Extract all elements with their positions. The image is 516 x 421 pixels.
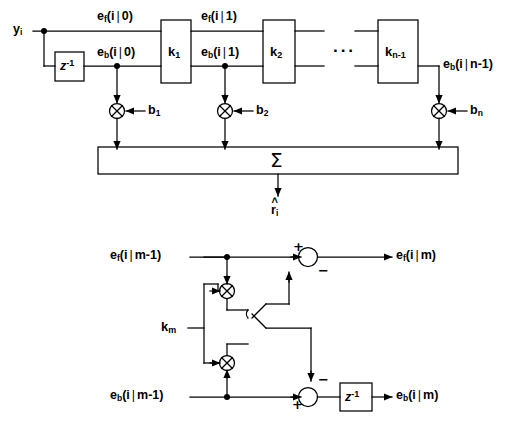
tap-gain-label-b2: b2 bbox=[256, 104, 268, 118]
output-label-ef-i-m: ef(i|m) bbox=[396, 249, 436, 263]
stages-ellipsis: ··· bbox=[333, 42, 356, 59]
sign-backward-plus: + bbox=[292, 398, 303, 411]
junction-backward-tap bbox=[224, 394, 230, 400]
junction-eb1-tap bbox=[222, 63, 228, 69]
tap-gain-label-bn: bn bbox=[470, 104, 483, 118]
delay-block-label-top: z-1 bbox=[60, 59, 74, 73]
input-label-eb-i-m-1: eb(i|m-1) bbox=[110, 389, 163, 403]
input-label-yi: yi bbox=[13, 23, 22, 37]
signal-label-ef-i-1: ef(i|1) bbox=[201, 10, 237, 24]
coefficient-label-km: km bbox=[161, 320, 176, 335]
stage-label-kn-1: kn-1 bbox=[385, 45, 406, 60]
signal-label-ef-i-0: ef(i|0) bbox=[97, 10, 133, 24]
junction-eb0-tap bbox=[114, 63, 120, 69]
stage-label-k2: k2 bbox=[270, 45, 282, 60]
stage-label-k1: k1 bbox=[168, 45, 180, 60]
lattice-filter-figure: yi z-1 ef(i|0) eb(i|0) ef(i|1) eb(i|1) e… bbox=[0, 0, 516, 421]
output-label-r-hat: ˄ri bbox=[271, 198, 278, 218]
wire-crossover-hop-left bbox=[246, 310, 248, 318]
sign-forward-minus: − bbox=[318, 264, 329, 277]
signal-label-eb-i-1: eb(i|1) bbox=[201, 46, 239, 60]
input-label-ef-i-m-1: ef(i|m-1) bbox=[110, 249, 161, 263]
sign-forward-plus: + bbox=[293, 240, 304, 253]
output-label-eb-i-m: eb(i|m) bbox=[396, 389, 438, 403]
delay-block-label-bottom: z-1 bbox=[345, 390, 359, 404]
tap-gain-label-b1: b1 bbox=[148, 104, 160, 118]
diagram-vector-layer bbox=[0, 0, 516, 421]
bottom-diagram-wires bbox=[188, 248, 392, 412]
signal-label-eb-i-0: eb(i|0) bbox=[97, 46, 135, 60]
sign-backward-minus: − bbox=[318, 373, 329, 386]
junction-input bbox=[41, 28, 47, 34]
junction-forward-tap bbox=[224, 254, 230, 260]
wire-cross-up-right bbox=[252, 304, 266, 318]
summation-symbol: Σ bbox=[270, 150, 283, 170]
signal-label-eb-i-nm1: eb(i|n-1) bbox=[443, 58, 493, 72]
